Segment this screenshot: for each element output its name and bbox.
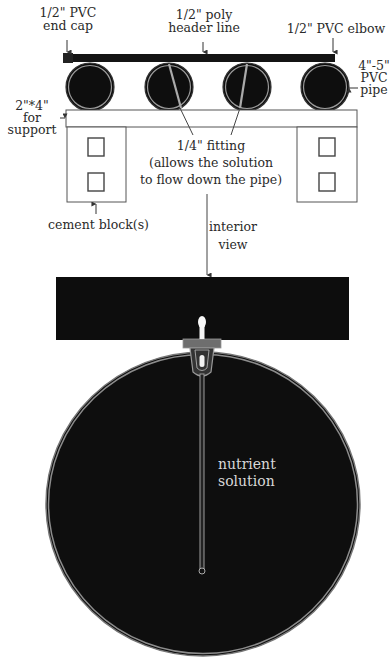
fitting-label-line3: to flow down the pipe) [133, 171, 289, 188]
end-cap-label-line2: end cap [33, 19, 103, 32]
fitting-label-line2: (allows the solution [133, 154, 289, 171]
hydroponic-pipe-diagram [0, 0, 391, 659]
elbow-label: 1/2" PVC elbow [281, 22, 391, 35]
interior-view-label-line1: interior [208, 218, 258, 236]
pipe-1 [66, 63, 114, 111]
interior-view-label: interior view [208, 218, 258, 254]
support-label-line3: support [0, 124, 64, 136]
end-cap-label: 1/2" PVC end cap [33, 6, 103, 32]
pipe-2 [145, 63, 193, 111]
fitting-label: 1/4" fitting (allows the solution to flo… [133, 137, 289, 188]
header-line-label-line2: header line [168, 21, 240, 34]
end-cap [63, 53, 73, 63]
cement-block-label: cement block(s) [48, 218, 148, 231]
pipe-label-line3: pipe [357, 84, 391, 96]
pipe-3 [223, 63, 271, 111]
nutrient-solution-label-line1: nutrient [218, 456, 276, 473]
pipe-cross-sections [66, 63, 349, 111]
pipe-label: 4"-5" PVC pipe [357, 60, 391, 96]
cement-block-right [297, 127, 357, 202]
solution-flow [200, 355, 205, 367]
header-line [63, 53, 335, 63]
header-line-label: 1/2" poly header line [168, 8, 240, 34]
cement-block-left [67, 127, 126, 202]
support-board [66, 110, 357, 127]
nutrient-solution-label: nutrient solution [218, 456, 276, 490]
nutrient-solution-label-line2: solution [218, 473, 276, 490]
interior-view-label-line2: view [208, 236, 258, 254]
pipe-4 [301, 63, 349, 111]
fitting-label-line1: 1/4" fitting [133, 137, 289, 154]
support-label: 2"*4" for support [0, 100, 64, 136]
